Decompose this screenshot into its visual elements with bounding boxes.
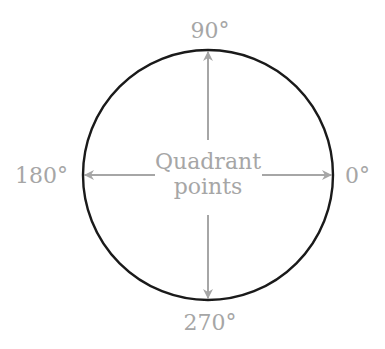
label-180: 180°: [15, 163, 68, 188]
center-label-line2: points: [174, 174, 243, 199]
quadrant-diagram: 90° 180° 0° 270° Quadrant points: [0, 0, 385, 349]
center-label-line1: Quadrant: [155, 149, 261, 174]
label-90: 90°: [191, 18, 230, 43]
label-270: 270°: [184, 310, 237, 335]
label-0: 0°: [345, 163, 370, 188]
